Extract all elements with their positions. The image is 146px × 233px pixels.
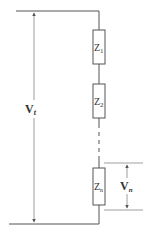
top-wire	[16, 11, 99, 30]
bottom-wire	[9, 205, 99, 224]
series-circuit-diagram: Vt Z1 Z2 Zn Vn	[0, 0, 146, 233]
